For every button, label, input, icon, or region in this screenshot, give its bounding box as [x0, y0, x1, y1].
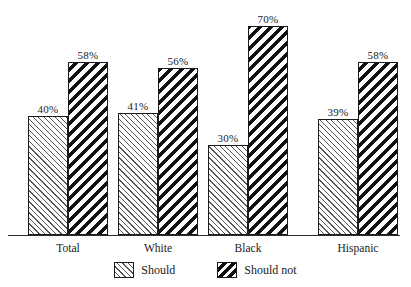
- legend-swatch-should-icon: [114, 262, 134, 278]
- bar-total-should-not: 58%: [68, 62, 108, 235]
- legend-item-should: Should: [114, 262, 175, 278]
- bar-white-should-not: 56%: [158, 68, 198, 235]
- legend-label-should-not: Should not: [244, 264, 296, 276]
- x-axis-baseline: [8, 235, 400, 236]
- legend-label-should: Should: [141, 264, 175, 276]
- chart-legend: Should Should not: [0, 262, 411, 278]
- bar-white-should: 41%: [118, 113, 158, 235]
- bar-value-label: 30%: [218, 133, 239, 144]
- bar-value-label: 70%: [258, 14, 279, 25]
- bar-hispanic-should-not: 58%: [358, 62, 398, 235]
- legend-swatch-should-not-icon: [217, 262, 237, 278]
- plot-area: 40%58%41%56%30%70%39%58%: [0, 0, 411, 240]
- x-axis-label-white: White: [144, 243, 172, 255]
- bar-chart: 40%58%41%56%30%70%39%58% Should Should n…: [0, 0, 411, 287]
- bar-value-label: 39%: [328, 107, 349, 118]
- bar-value-label: 40%: [38, 104, 59, 115]
- bar-hispanic-should: 39%: [318, 119, 358, 235]
- bar-value-label: 56%: [168, 56, 189, 67]
- x-axis-label-black: Black: [235, 243, 262, 255]
- bar-value-label: 58%: [368, 50, 389, 61]
- bar-value-label: 58%: [78, 50, 99, 61]
- bar-total-should: 40%: [28, 116, 68, 235]
- legend-item-should-not: Should not: [217, 262, 296, 278]
- bar-black-should: 30%: [208, 145, 248, 235]
- x-axis-label-total: Total: [56, 243, 79, 255]
- bar-black-should-not: 70%: [248, 26, 288, 235]
- x-axis-label-hispanic: Hispanic: [338, 243, 379, 255]
- bar-value-label: 41%: [128, 101, 149, 112]
